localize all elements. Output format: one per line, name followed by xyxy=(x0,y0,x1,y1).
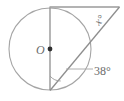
geometry-canvas: O x° 38° xyxy=(0,0,124,101)
center-dot xyxy=(48,47,53,52)
geometry-figure: O x° 38° xyxy=(0,0,124,101)
vertex-angle-label-38: 38° xyxy=(94,64,111,78)
center-label-O: O xyxy=(36,43,45,57)
